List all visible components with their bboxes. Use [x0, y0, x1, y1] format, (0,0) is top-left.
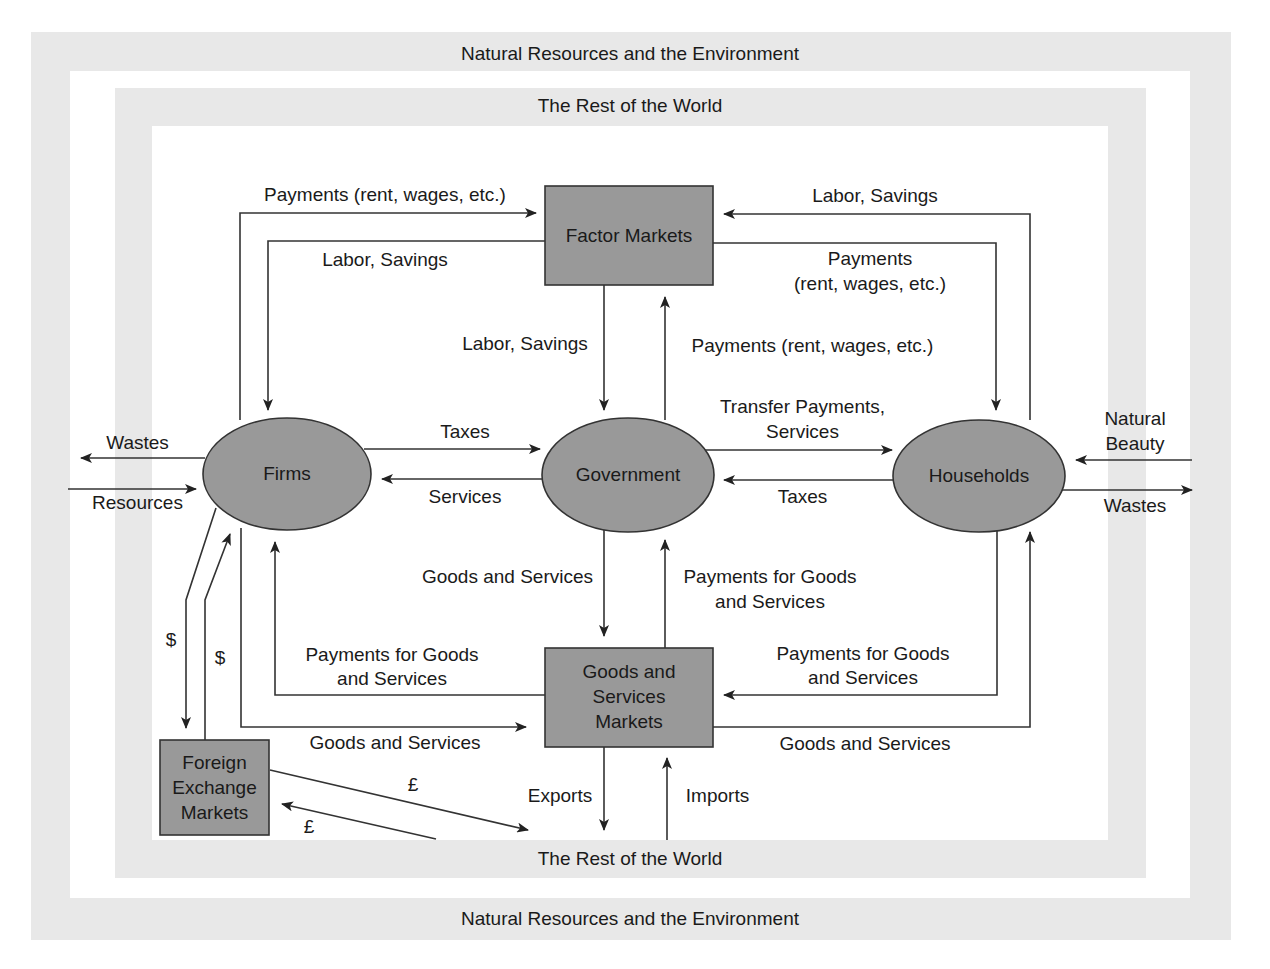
flow-label-factor-households-payments-2: (rent, wages, etc.)	[770, 272, 970, 296]
flow-label-gsm-firms-payments-2: and Services	[282, 667, 502, 691]
region-label-rest-of-world-bottom: The Rest of the World	[340, 847, 920, 871]
arrow-fx-to-firms-dollar	[205, 534, 230, 740]
flow-label-households-wastes: Wastes	[1085, 494, 1185, 518]
flow-label-fx-firms-dollar: $	[211, 646, 229, 670]
flow-label-firms-gsm-goods: Goods and Services	[290, 731, 500, 755]
households-label: Households	[893, 464, 1065, 488]
arrow-firms-to-fx-dollar	[186, 508, 216, 728]
factor-markets-label: Factor Markets	[545, 224, 713, 248]
flow-label-households-factor-labor: Labor, Savings	[790, 184, 960, 208]
flow-label-firms-fx-dollar: $	[162, 628, 180, 652]
flow-label-gsm-firms-payments-1: Payments for Goods	[282, 643, 502, 667]
flow-label-natural-beauty-2: Beauty	[1085, 432, 1185, 456]
arrow-households-to-factor-labor	[724, 214, 1030, 420]
region-label-natural-resources-top: Natural Resources and the Environment	[340, 42, 920, 66]
flow-label-factor-gov-labor: Labor, Savings	[440, 332, 610, 356]
flow-label-gov-households-2: Services	[700, 420, 905, 444]
flow-label-households-gsm-payments-2: and Services	[753, 666, 973, 690]
flow-label-gov-households-1: Transfer Payments,	[700, 395, 905, 419]
flow-label-resources: Resources	[80, 491, 195, 515]
flow-label-natural-beauty-1: Natural	[1085, 407, 1185, 431]
flow-label-world-fx-pound: £	[300, 815, 318, 839]
fx-label-2: Exchange	[160, 776, 269, 800]
region-label-natural-resources-bottom: Natural Resources and the Environment	[340, 907, 920, 931]
flow-label-gov-firms-services: Services	[410, 485, 520, 509]
arrow-firms-to-gsm-goods	[241, 528, 526, 727]
flow-label-factor-firms-labor: Labor, Savings	[300, 248, 470, 272]
fx-label-1: Foreign	[160, 751, 269, 775]
flow-label-gsm-gov-payments-1: Payments for Goods	[660, 565, 880, 589]
flow-label-households-gov-taxes: Taxes	[750, 485, 855, 509]
arrow-firms-to-factor-payments	[240, 213, 536, 420]
flow-label-firms-factor-payments: Payments (rent, wages, etc.)	[240, 183, 530, 207]
firms-label: Firms	[203, 462, 371, 486]
government-label: Government	[542, 463, 714, 487]
flow-label-gov-factor-payments: Payments (rent, wages, etc.)	[670, 334, 955, 358]
flow-label-firms-wastes: Wastes	[85, 431, 190, 455]
flow-label-firms-gov-taxes: Taxes	[410, 420, 520, 444]
flow-label-gsm-gov-payments-2: and Services	[660, 590, 880, 614]
gsm-label-1: Goods and	[545, 660, 713, 684]
flow-label-exports: Exports	[515, 784, 605, 808]
region-label-rest-of-world-top: The Rest of the World	[340, 94, 920, 118]
gsm-label-3: Markets	[545, 710, 713, 734]
fx-label-3: Markets	[160, 801, 269, 825]
flow-label-imports: Imports	[675, 784, 760, 808]
flow-label-gov-gsm-goods: Goods and Services	[400, 565, 615, 589]
flow-label-fx-world-pound: £	[404, 773, 422, 797]
flow-label-factor-households-payments-1: Payments	[770, 247, 970, 271]
gsm-label-2: Services	[545, 685, 713, 709]
arrow-gsm-to-households-goods	[713, 532, 1030, 727]
flow-label-households-gsm-payments-1: Payments for Goods	[753, 642, 973, 666]
flow-label-gsm-households-goods: Goods and Services	[760, 732, 970, 756]
